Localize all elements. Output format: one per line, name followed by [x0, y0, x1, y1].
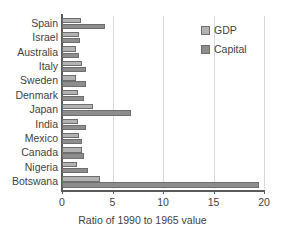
legend-label-gdp: GDP	[214, 24, 237, 37]
bar-capital-israel	[62, 38, 80, 43]
bar-gdp-sweden	[62, 75, 76, 80]
bar-gdp-canada	[62, 147, 82, 152]
x-tick-label-0: 0	[47, 196, 77, 208]
bar-gdp-botswana	[62, 176, 100, 181]
bar-gdp-australia	[62, 46, 76, 51]
gridline-20	[264, 16, 265, 189]
y-tick-label-israel: Israel	[32, 32, 58, 43]
legend-swatch-gdp-icon	[201, 26, 210, 35]
bar-gdp-mexico	[62, 133, 79, 138]
bar-gdp-italy	[62, 61, 82, 66]
y-tick-label-nigeria: Nigeria	[25, 162, 58, 173]
bar-gdp-nigeria	[62, 162, 77, 167]
y-tick-label-canada: Canada	[21, 147, 58, 158]
x-tick-mark-5	[113, 190, 114, 194]
y-tick-label-spain: Spain	[31, 18, 58, 29]
bar-group-row	[62, 117, 264, 131]
bar-group-row	[62, 74, 264, 88]
bar-capital-australia	[62, 53, 79, 58]
bar-capital-canada	[62, 153, 84, 158]
x-tick-mark-0	[62, 190, 63, 194]
bar-capital-japan	[62, 110, 131, 115]
bar-capital-botswana	[62, 182, 259, 187]
bar-group-row	[62, 103, 264, 117]
bar-gdp-japan	[62, 104, 93, 109]
bar-capital-sweden	[62, 81, 86, 86]
legend-swatch-capital-icon	[201, 45, 210, 54]
x-tick-mark-20	[264, 190, 265, 194]
y-tick-label-denmark: Denmark	[15, 90, 58, 101]
bar-group-row	[62, 89, 264, 103]
bar-gdp-spain	[62, 18, 81, 23]
bar-group-row	[62, 175, 264, 189]
bar-capital-italy	[62, 67, 86, 72]
bar-gdp-india	[62, 119, 78, 124]
bar-group-row	[62, 60, 264, 74]
y-tick-label-australia: Australia	[17, 47, 58, 58]
y-tick-label-sweden: Sweden	[20, 75, 58, 86]
legend-label-capital: Capital	[214, 43, 247, 56]
bar-chart: SpainIsraelAustraliaItalySwedenDenmarkJa…	[0, 0, 285, 236]
plot-area	[62, 16, 264, 189]
y-tick-label-japan: Japan	[29, 104, 58, 115]
bar-capital-mexico	[62, 139, 82, 144]
bar-capital-india	[62, 125, 86, 130]
x-axis-title: Ratio of 1990 to 1965 value	[0, 214, 285, 226]
x-tick-label-15: 15	[199, 196, 229, 208]
bar-gdp-israel	[62, 32, 79, 37]
x-tick-label-5: 5	[98, 196, 128, 208]
x-tick-mark-10	[163, 190, 164, 194]
bar-group-row	[62, 146, 264, 160]
x-tick-mark-15	[214, 190, 215, 194]
x-tick-label-20: 20	[249, 196, 279, 208]
y-tick-label-mexico: Mexico	[25, 133, 58, 144]
bar-gdp-denmark	[62, 90, 78, 95]
bar-group-row	[62, 161, 264, 175]
bar-capital-denmark	[62, 96, 84, 101]
y-tick-label-botswana: Botswana	[12, 176, 58, 187]
y-tick-label-india: India	[35, 119, 58, 130]
bar-group-row	[62, 132, 264, 146]
x-tick-label-10: 10	[148, 196, 178, 208]
bar-capital-nigeria	[62, 168, 88, 173]
y-tick-label-italy: Italy	[39, 61, 58, 72]
bar-capital-spain	[62, 24, 105, 29]
